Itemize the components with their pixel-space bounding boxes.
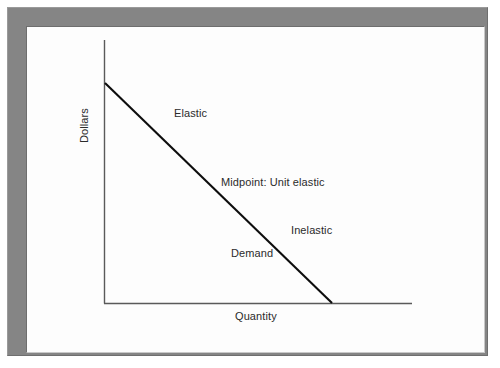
demand-curve-line (105, 83, 332, 303)
annotation-inelastic: Inelastic (291, 224, 332, 236)
x-axis-label: Quantity (235, 310, 277, 322)
annotation-elastic: Elastic (174, 107, 207, 119)
annotation-demand: Demand (231, 247, 273, 259)
annotation-midpoint-unit-elastic: Midpoint: Unit elastic (221, 176, 325, 188)
y-axis-label: Dollars (78, 108, 90, 143)
diagram-canvas: Elastic Midpoint: Unit elastic Inelastic… (0, 0, 500, 368)
